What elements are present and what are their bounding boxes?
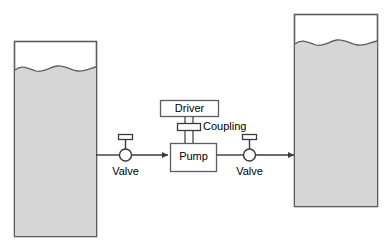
coupling-hub bbox=[178, 124, 201, 131]
pump: Pump bbox=[171, 144, 217, 172]
suction-valve-label: Valve bbox=[112, 165, 139, 177]
coupling-assembly: Coupling bbox=[178, 117, 247, 143]
driver-label: Driver bbox=[175, 102, 205, 114]
discharge-valve-handwheel bbox=[243, 135, 257, 140]
pumping-system-diagram: Valve Driver Coupling Pump bbox=[0, 0, 389, 248]
suction-valve-body-icon bbox=[120, 149, 132, 161]
suction-tank bbox=[15, 42, 97, 237]
discharge-tank bbox=[295, 15, 378, 207]
discharge-valve-body-icon bbox=[244, 149, 256, 161]
coupling-label: Coupling bbox=[203, 120, 246, 132]
discharge-valve-label: Valve bbox=[236, 165, 263, 177]
suction-valve-handwheel bbox=[119, 135, 133, 140]
suction-valve[interactable]: Valve bbox=[112, 135, 139, 177]
driver: Driver bbox=[161, 101, 219, 117]
discharge-valve[interactable]: Valve bbox=[236, 135, 263, 177]
diagram-canvas: Valve Driver Coupling Pump bbox=[0, 0, 389, 248]
pump-label: Pump bbox=[179, 150, 208, 162]
